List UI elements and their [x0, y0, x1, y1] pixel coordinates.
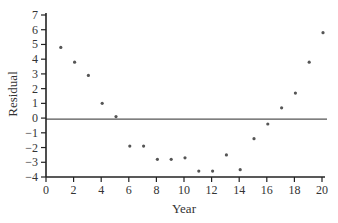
y-tick-label: 7	[32, 8, 38, 22]
y-tick-label: 1	[32, 96, 38, 110]
x-axis-ticks: 02468101214161820	[43, 177, 328, 197]
data-point	[225, 153, 228, 156]
data-point	[266, 122, 269, 125]
x-tick-label: 4	[98, 183, 104, 197]
data-point	[308, 61, 311, 64]
x-tick-label: 16	[261, 183, 273, 197]
data-point	[73, 61, 76, 64]
x-tick-label: 20	[316, 183, 328, 197]
residual-scatter-chart: −4−3−2−101234567 02468101214161820 Year …	[0, 0, 338, 223]
data-point	[114, 115, 117, 118]
data-point	[197, 170, 200, 173]
data-point	[239, 168, 242, 171]
data-point	[252, 137, 255, 140]
y-tick-label: 4	[32, 52, 38, 66]
data-point	[156, 158, 159, 161]
x-tick-label: 14	[233, 183, 245, 197]
data-point	[101, 102, 104, 105]
y-tick-label: 6	[32, 23, 38, 37]
data-point	[170, 158, 173, 161]
x-tick-label: 2	[71, 183, 77, 197]
data-point	[294, 91, 297, 94]
x-axis-title: Year	[172, 201, 197, 216]
y-axis-title: Residual	[5, 71, 20, 117]
y-tick-label: 3	[32, 67, 38, 81]
y-tick-label: −4	[25, 170, 38, 184]
y-tick-label: 5	[32, 37, 38, 51]
data-point	[87, 74, 90, 77]
data-point	[321, 31, 324, 34]
x-tick-label: 18	[288, 183, 300, 197]
y-tick-label: 0	[32, 111, 38, 125]
data-point	[280, 106, 283, 109]
y-tick-label: −2	[25, 141, 38, 155]
y-axis-ticks: −4−3−2−101234567	[25, 8, 46, 184]
x-tick-label: 12	[206, 183, 218, 197]
data-point	[142, 144, 145, 147]
y-tick-label: −1	[25, 126, 38, 140]
x-tick-label: 8	[153, 183, 159, 197]
data-point	[59, 46, 62, 49]
x-tick-label: 10	[178, 183, 190, 197]
y-tick-label: −3	[25, 155, 38, 169]
x-tick-label: 6	[126, 183, 132, 197]
data-point	[211, 170, 214, 173]
data-points	[59, 31, 324, 173]
data-point	[128, 144, 131, 147]
y-tick-label: 2	[32, 82, 38, 96]
x-tick-label: 0	[43, 183, 49, 197]
data-point	[183, 156, 186, 159]
